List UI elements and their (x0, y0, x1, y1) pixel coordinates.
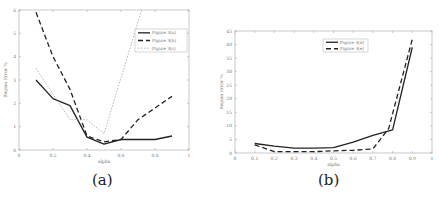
x-tick-label: 0.8 (389, 156, 396, 161)
legend-entry: Figure 3(c) (152, 46, 176, 51)
x-tick-label: 0.4 (83, 153, 90, 158)
x-tick-label: 0 (18, 153, 21, 158)
y-tick-label: 1 (13, 124, 16, 129)
series-line (255, 47, 413, 148)
legend-entry: Figure 3(d) (340, 40, 364, 45)
x-tick-label: 0.6 (350, 156, 357, 161)
y-tick-label: 20 (226, 96, 232, 101)
chart-b-caption: (b) (318, 171, 339, 189)
x-tick-label: 0.1 (251, 156, 258, 161)
y-tick-label: 35 (226, 56, 232, 61)
y-tick-label: 6 (13, 8, 16, 13)
chart-b-plot: 00.10.20.30.40.50.60.70.80.9105101520253… (220, 0, 440, 170)
x-tick-label: 0.2 (49, 153, 56, 158)
y-tick-label: 40 (226, 42, 232, 47)
x-tick-label: 0.9 (409, 156, 416, 161)
chart-a-caption: (a) (92, 171, 113, 189)
legend-entry: Figure 3(b) (152, 38, 176, 43)
x-tick-label: 1 (188, 153, 191, 158)
y-tick-label: 15 (226, 110, 232, 115)
legend-entry: Figure 3(a) (152, 30, 176, 35)
x-tick-label: 0.6 (117, 153, 124, 158)
x-tick-label: 0.5 (330, 156, 337, 161)
y-tick-label: 2 (13, 101, 16, 106)
y-tick-label: 30 (226, 69, 232, 74)
legend-entry: Figure 3(e) (340, 46, 364, 51)
y-tick-label: 25 (226, 83, 232, 88)
series-line (36, 5, 143, 133)
y-tick-label: 45 (226, 29, 232, 34)
x-tick-label: 0.8 (151, 153, 158, 158)
y-tick-label: 0 (229, 151, 232, 156)
x-tick-label: 0 (234, 156, 237, 161)
x-axis-label: alpha (98, 159, 111, 164)
y-tick-label: 10 (226, 123, 232, 128)
y-axis-label: Region Error % (3, 62, 8, 98)
x-axis-label: alpha (327, 162, 340, 167)
x-tick-label: 0.4 (310, 156, 317, 161)
x-tick-label: 0.2 (271, 156, 278, 161)
x-tick-label: 0.7 (369, 156, 376, 161)
x-tick-label: 0.3 (291, 156, 298, 161)
y-tick-label: 3 (13, 78, 16, 83)
y-tick-label: 5 (13, 31, 16, 36)
x-tick-label: 1 (431, 156, 434, 161)
chart-panel-b: 00.10.20.30.40.50.60.70.80.9105101520253… (220, 0, 440, 198)
series-line (255, 39, 413, 152)
series-line (36, 80, 172, 144)
y-axis-label: Region Error % (220, 74, 224, 110)
y-tick-label: 5 (229, 137, 232, 142)
chart-a-plot: 00.20.40.60.810123456alphaRegion Error %… (0, 0, 220, 170)
y-tick-label: 0 (13, 148, 16, 153)
chart-panel-a: 00.20.40.60.810123456alphaRegion Error %… (0, 0, 220, 198)
y-tick-label: 4 (13, 54, 16, 59)
